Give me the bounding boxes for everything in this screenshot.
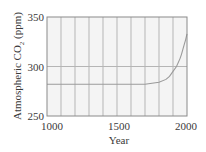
x-tick-1500: 1500 bbox=[108, 120, 131, 132]
co2-chart: 350 300 250 1000 1500 2000 Year Atmosphe… bbox=[0, 0, 206, 152]
y-axis-label: Atmospheric CO2 (ppm) bbox=[11, 12, 26, 120]
y-tick-350: 350 bbox=[28, 11, 45, 23]
x-axis-label: Year bbox=[109, 134, 130, 146]
x-tick-2000: 2000 bbox=[175, 120, 198, 132]
y-tick-300: 300 bbox=[28, 61, 45, 73]
x-tick-1000: 1000 bbox=[41, 120, 64, 132]
